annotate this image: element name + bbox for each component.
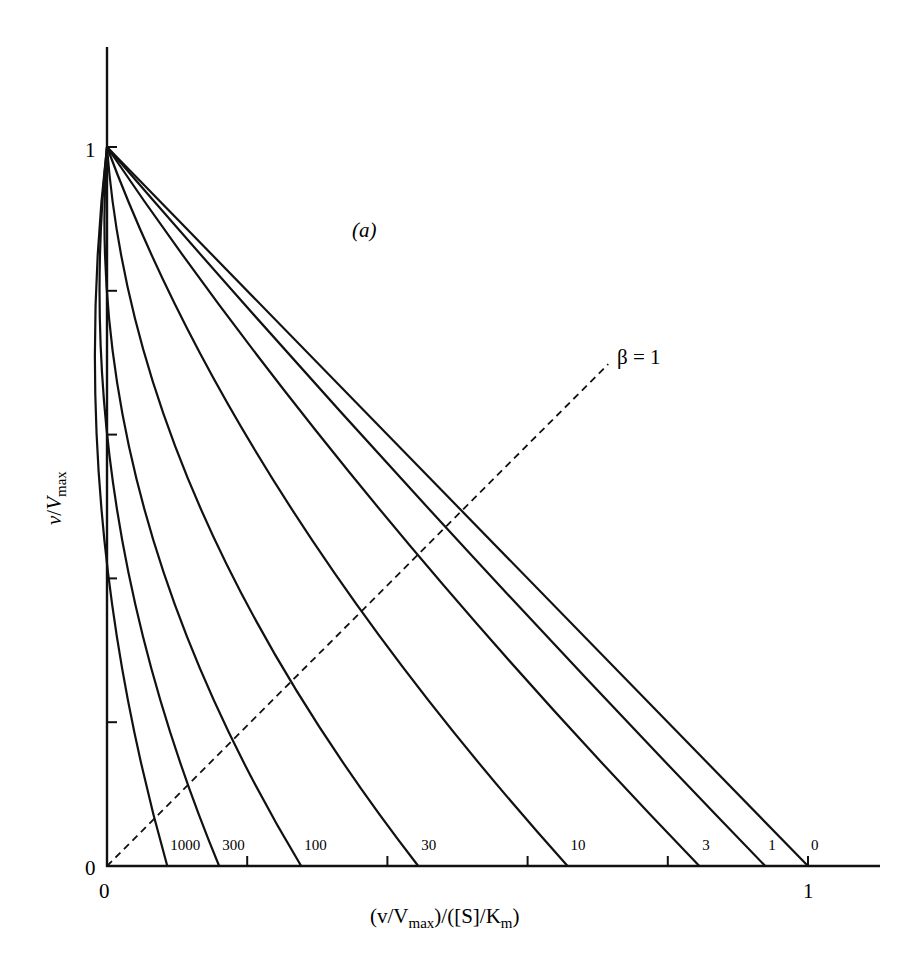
curve-label-300: 300 bbox=[222, 837, 245, 853]
curve-label-1000: 1000 bbox=[170, 837, 200, 853]
beta-label: β = 1 bbox=[617, 345, 661, 369]
x-axis-label-post: ) bbox=[513, 904, 520, 928]
x-axis-label-pre: (v/V bbox=[370, 904, 409, 928]
panel-label: (a) bbox=[352, 218, 377, 242]
curve-beta-1 bbox=[107, 147, 765, 866]
curve-beta-10 bbox=[107, 147, 568, 866]
curve-label-100: 100 bbox=[304, 837, 327, 853]
curve-beta-0 bbox=[107, 147, 808, 866]
curve-label-10: 10 bbox=[571, 837, 586, 853]
chart-figure: 10003001003010310 1 0 0 1 (a) β = 1 v/Vm… bbox=[0, 0, 921, 967]
curve-label-1: 1 bbox=[768, 837, 776, 853]
curve-label-0: 0 bbox=[811, 837, 819, 853]
y-tick-label-0: 0 bbox=[85, 856, 96, 880]
curve-label-30: 30 bbox=[421, 837, 436, 853]
curve-label-3: 3 bbox=[702, 837, 710, 853]
curve-beta-3 bbox=[107, 147, 699, 866]
x-axis-label-sub: max bbox=[409, 915, 435, 931]
curve-beta-30 bbox=[107, 147, 418, 866]
y-axis-label: v/Vmax bbox=[42, 471, 69, 525]
beta-reference-line bbox=[107, 364, 608, 866]
y-axis-label-sub: max bbox=[53, 471, 69, 497]
x-axis-label-sub2: m bbox=[501, 915, 513, 931]
x-tick-label-1: 1 bbox=[803, 879, 814, 903]
x-axis-label-mid: )/([S]/K bbox=[434, 904, 501, 928]
x-axis-label: (v/Vmax)/([S]/Km) bbox=[370, 904, 520, 931]
y-tick-label-1: 1 bbox=[85, 138, 96, 162]
x-tick-label-0: 0 bbox=[99, 879, 110, 903]
curve-beta-100 bbox=[104, 147, 301, 866]
curves bbox=[95, 147, 808, 866]
curve-labels: 10003001003010310 bbox=[170, 837, 818, 853]
